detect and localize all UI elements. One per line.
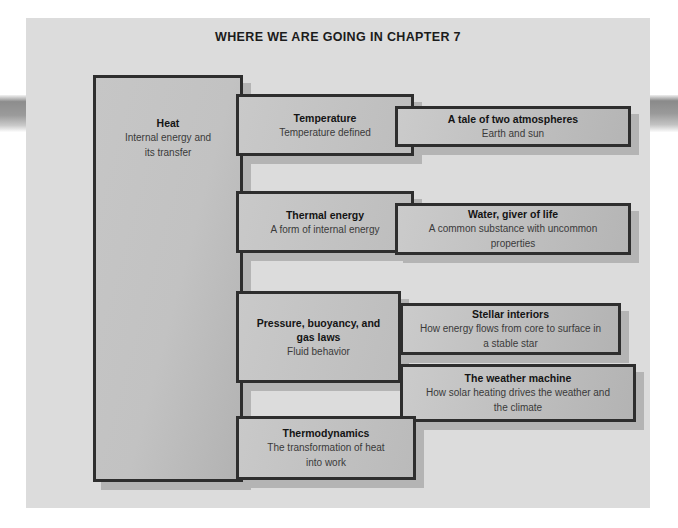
node-subtitle-weather-line2: the climate [494, 401, 542, 415]
node-subtitle-heat-line2: its transfer [145, 146, 192, 160]
page-title: WHERE WE ARE GOING IN CHAPTER 7 [26, 30, 650, 44]
node-subtitle-heat-line1: Internal energy and [125, 131, 211, 145]
node-title-thermodynamics: Thermodynamics [283, 426, 370, 440]
flowchart-node-pressure[interactable]: Pressure, buoyancy, and gas laws Fluid b… [236, 291, 401, 383]
flowchart-node-weather[interactable]: The weather machine How solar heating dr… [400, 364, 636, 422]
flowchart-node-thermodynamics[interactable]: Thermodynamics The transformation of hea… [236, 416, 416, 480]
node-title-atmospheres: A tale of two atmospheres [448, 112, 578, 126]
flowchart-node-atmospheres[interactable]: A tale of two atmospheres Earth and sun [395, 106, 631, 147]
node-title-stellar: Stellar interiors [472, 307, 549, 321]
node-subtitle-weather-line1: How solar heating drives the weather and [426, 386, 610, 400]
screenshot-root: WHERE WE ARE GOING IN CHAPTER 7 Heat Int… [0, 0, 678, 528]
node-title-thermal-energy: Thermal energy [286, 208, 364, 222]
node-subtitle-thermodynamics-line2: into work [306, 456, 346, 470]
node-title-temperature: Temperature [294, 111, 357, 125]
flowchart-node-temperature[interactable]: Temperature Temperature defined [236, 94, 414, 156]
node-subtitle-thermodynamics-line1: The transformation of heat [267, 441, 384, 455]
flowchart-node-heat[interactable]: Heat Internal energy and its transfer [93, 75, 243, 482]
flowchart-node-water[interactable]: Water, giver of life A common substance … [395, 203, 631, 255]
page-edge-band-right [648, 95, 678, 132]
node-subtitle-water-line2: properties [491, 237, 535, 251]
flowchart-node-thermal-energy[interactable]: Thermal energy A form of internal energy [236, 191, 414, 253]
node-subtitle-thermal-energy: A form of internal energy [271, 223, 380, 237]
node-title-pressure-line1: Pressure, buoyancy, and [257, 316, 381, 330]
node-subtitle-stellar-line2: a stable star [483, 337, 537, 351]
flowchart-node-stellar[interactable]: Stellar interiors How energy flows from … [400, 303, 621, 355]
node-subtitle-atmospheres: Earth and sun [482, 127, 544, 141]
node-subtitle-water-line1: A common substance with uncommon [429, 222, 597, 236]
node-subtitle-stellar-line1: How energy flows from core to surface in [420, 322, 601, 336]
node-subtitle-temperature: Temperature defined [279, 126, 371, 140]
node-title-heat: Heat [157, 116, 180, 130]
node-title-water: Water, giver of life [468, 207, 558, 221]
node-subtitle-pressure: Fluid behavior [287, 345, 350, 359]
node-title-pressure-line2: gas laws [297, 330, 341, 344]
node-title-weather: The weather machine [465, 371, 572, 385]
book-page: WHERE WE ARE GOING IN CHAPTER 7 Heat Int… [26, 18, 650, 508]
